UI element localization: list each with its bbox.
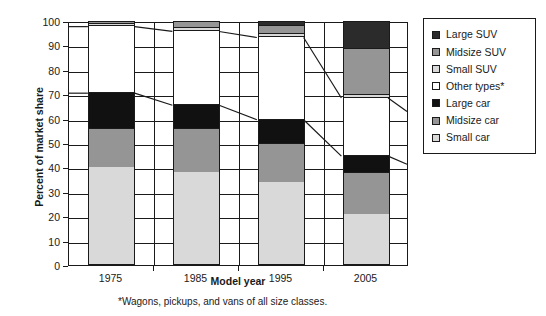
y-axis-tick [63,95,68,96]
y-axis-tick-label: 90 [16,40,60,52]
connector-lines-group [69,23,407,265]
other-types-top-connector [135,27,173,32]
y-axis-tick-label: 80 [16,65,60,77]
y-axis-tick-label: 70 [16,89,60,101]
legend-swatch-icon [432,134,440,142]
y-axis-tick [63,266,68,267]
plot-area [68,22,408,266]
large-car-top-connector [219,105,257,120]
y-axis-tick [63,242,68,243]
y-axis-tick [63,22,68,23]
y-axis-tick [63,46,68,47]
legend-item[interactable]: Large car [432,95,535,112]
y-axis-tick-label: 30 [16,187,60,199]
legend-swatch-icon [432,99,440,107]
other-types-top-connector [219,31,257,37]
legend-item[interactable]: Midsize SUV [432,43,535,60]
legend-item-label: Midsize SUV [446,47,506,58]
y-axis-tick [63,193,68,194]
y-axis-tick [63,144,68,145]
legend-swatch-icon [432,48,440,56]
x-axis-tick [323,266,324,271]
y-axis-tick-label: 20 [16,211,60,223]
y-axis-tick-label: 10 [16,236,60,248]
legend-swatch-icon [432,82,440,90]
y-axis-tick [63,168,68,169]
y-axis-tick [63,71,68,72]
legend-item-label: Small car [446,132,490,143]
y-axis-tick-label: 60 [16,114,60,126]
footnote: *Wagons, pickups, and vans of all size c… [118,296,327,307]
legend-swatch-icon [432,65,440,73]
legend-item-label: Midsize car [446,115,499,126]
x-axis-title: Model year [68,275,408,287]
x-axis-tick [153,266,154,271]
legend-item[interactable]: Small SUV [432,60,535,77]
legend-swatch-icon [432,31,440,39]
large-car-top-connector [388,156,407,164]
legend-item-label: Large SUV [446,29,497,40]
y-axis-tick [63,120,68,121]
large-car-top-connector [304,120,342,156]
y-axis-tick-label: 0 [16,260,60,272]
y-axis-tick [63,217,68,218]
legend-item[interactable]: Other types* [432,78,535,95]
y-axis-tick-label: 100 [16,16,60,28]
other-types-top-connector [304,38,342,98]
y-axis-tick-label: 50 [16,138,60,150]
large-car-top-connector [135,93,173,105]
legend-item-label: Large car [446,98,490,109]
chart-figure: Percent of market share 0102030405060708… [0,0,546,316]
other-types-top-connector [388,98,407,112]
legend-item-label: Small SUV [446,64,497,75]
legend-item-label: Other types* [446,81,504,92]
legend-swatch-icon [432,117,440,125]
legend: Large SUVMidsize SUVSmall SUVOther types… [423,18,536,154]
legend-item[interactable]: Large SUV [432,26,535,43]
x-axis-tick [238,266,239,271]
legend-item[interactable]: Midsize car [432,112,535,129]
y-axis-tick-label: 40 [16,162,60,174]
legend-item[interactable]: Small car [432,129,535,146]
